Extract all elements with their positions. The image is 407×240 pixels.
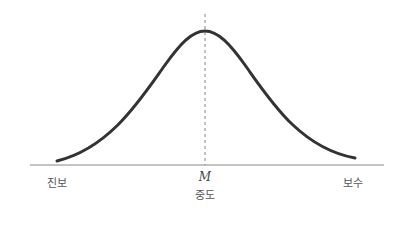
label-center: 중도 bbox=[195, 186, 215, 202]
label-right: 보수 bbox=[343, 174, 363, 190]
bell-curve bbox=[57, 31, 355, 161]
label-left: 진보 bbox=[47, 174, 67, 190]
label-median-marker: M bbox=[199, 170, 211, 184]
